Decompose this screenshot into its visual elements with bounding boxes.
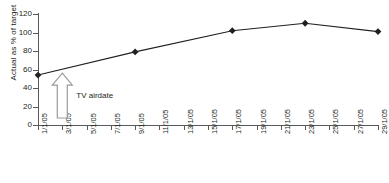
tv-airdate-arrow-icon xyxy=(52,73,72,118)
data-point-marker xyxy=(35,72,42,79)
data-point-marker xyxy=(302,20,309,27)
up-arrow-icon xyxy=(52,73,72,118)
data-point-marker xyxy=(375,28,382,35)
data-point-marker xyxy=(229,27,236,34)
data-point-marker xyxy=(132,49,139,56)
tv-airdate-label: TV airdate xyxy=(76,91,113,100)
series-line xyxy=(38,23,378,75)
series-markers xyxy=(35,20,382,79)
